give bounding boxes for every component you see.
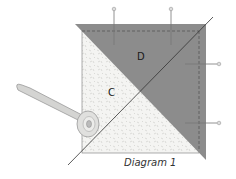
label-c: C	[108, 87, 115, 98]
label-d: D	[137, 51, 145, 62]
diagram-caption: Diagram 1	[124, 157, 176, 168]
quilt-diagram	[0, 0, 236, 179]
